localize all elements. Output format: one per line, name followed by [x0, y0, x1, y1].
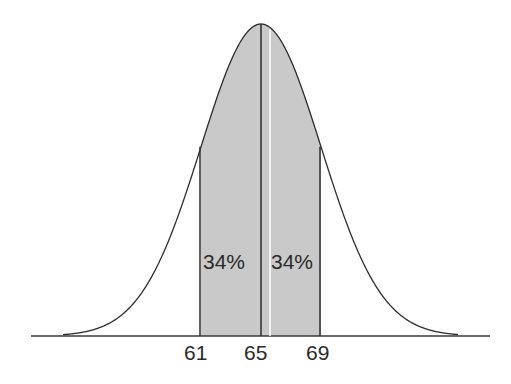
right-region-percent-label: 34% — [271, 251, 313, 272]
normal-distribution-chart — [0, 0, 511, 384]
tick-label-69: 69 — [306, 342, 329, 363]
tick-label-61: 61 — [184, 342, 207, 363]
tick-label-65: 65 — [244, 342, 267, 363]
left-region-percent-label: 34% — [203, 251, 245, 272]
